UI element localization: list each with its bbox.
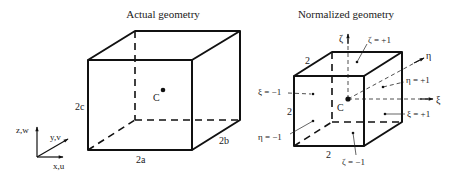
global-axes-triad: z,w y,v x,u <box>16 125 68 171</box>
element-geometry-diagram: Actual geometry C 2c 2a 2b z,w y,v x,u N… <box>0 0 451 175</box>
eta-plus-label: η = +1 <box>406 75 430 85</box>
zeta-axis-label: ζ <box>339 33 343 45</box>
dimension-2c: 2c <box>75 101 85 112</box>
normalized-geometry-title: Normalized geometry <box>298 8 395 20</box>
eta-axis-label: η <box>426 50 431 61</box>
centroid-label: C <box>337 102 344 113</box>
z-axis-label: z,w <box>16 125 29 135</box>
eta-axis-arrow-icon <box>414 58 424 63</box>
zeta-minus-label: ζ = −1 <box>342 157 365 167</box>
xi-axis-label: ξ <box>436 94 441 106</box>
face-zeta-minus: ζ = −1 <box>342 132 365 167</box>
dimension-2a: 2a <box>136 154 146 165</box>
xi-plus-label: ξ = +1 <box>407 109 430 119</box>
leader-line <box>353 133 356 155</box>
dimension-2b: 2b <box>219 135 229 146</box>
dimension-left-2: 2 <box>287 106 292 117</box>
actual-cube-right-face <box>192 31 240 150</box>
face-xi-plus: ξ = +1 <box>384 109 430 119</box>
actual-geometry-panel: Actual geometry C 2c 2a 2b <box>75 8 240 165</box>
centroid-dot <box>161 88 166 93</box>
eta-minus-label: η = −1 <box>258 132 282 142</box>
face-zeta-plus: ζ = +1 <box>356 35 391 63</box>
face-point <box>312 93 315 96</box>
dimension-top-2: 2 <box>305 55 310 66</box>
x-axis-label: x,u <box>53 161 65 171</box>
actual-geometry-title: Actual geometry <box>126 8 200 20</box>
y-axis-label: y,v <box>50 132 61 142</box>
hidden-edge-diagonal <box>294 122 332 146</box>
zeta-plus-label: ζ = +1 <box>368 35 391 45</box>
dimension-bottom-2: 2 <box>326 149 331 160</box>
centroid-label: C <box>153 92 160 103</box>
actual-cube-top-face <box>88 31 240 60</box>
centroid-dot <box>345 96 350 101</box>
hidden-edge-diagonal <box>88 120 135 150</box>
face-xi-minus: ξ = −1 <box>258 87 314 97</box>
xi-minus-label: ξ = −1 <box>258 87 281 97</box>
leader-line <box>383 82 404 87</box>
face-eta-plus: η = +1 <box>382 75 430 88</box>
normalized-geometry-panel: Normalized geometry ζ η ξ C 2 2 2 <box>258 8 441 167</box>
actual-cube-front-face <box>88 60 192 150</box>
leader-line <box>288 93 311 94</box>
